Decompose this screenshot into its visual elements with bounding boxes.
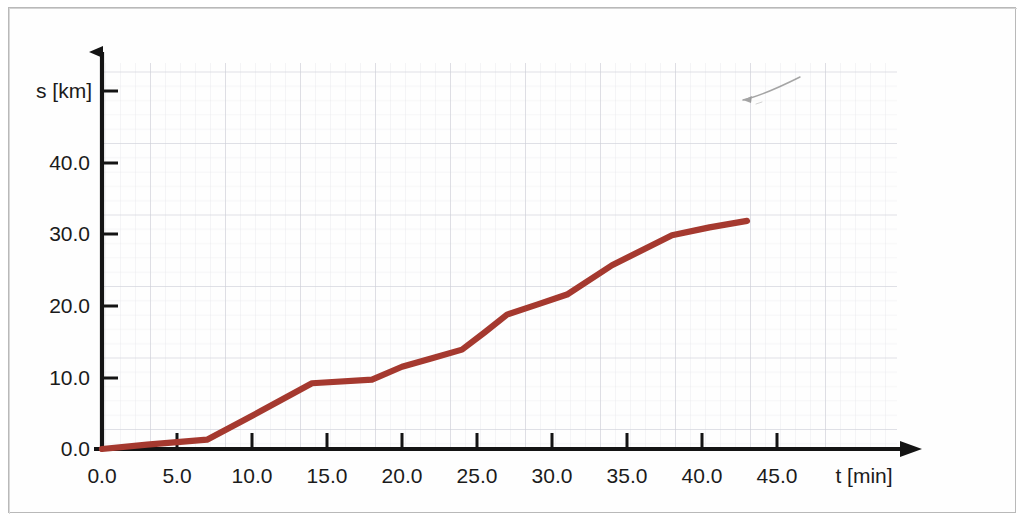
x-tick-label-45: 45.0 [757, 464, 798, 487]
x-tick-label-0: 0.0 [87, 464, 116, 487]
grid-area [102, 63, 897, 449]
x-tick-label-35: 35.0 [607, 464, 648, 487]
y-tick-label-10: 10.0 [49, 366, 90, 389]
x-tick-label-20: 20.0 [382, 464, 423, 487]
x-tick-label-5: 5.0 [162, 464, 191, 487]
y-tick-label-30: 30.0 [49, 222, 90, 245]
st-diagram: 0.0 10.0 20.0 30.0 40.0 s [km] 0.0 5.0 1… [0, 0, 1026, 526]
x-tick-label-25: 25.0 [457, 464, 498, 487]
y-tick-label-20: 20.0 [49, 294, 90, 317]
y-axis-tick-labels: 0.0 10.0 20.0 30.0 40.0 s [km] [36, 79, 92, 460]
y-tick-label-0: 0.0 [61, 437, 90, 460]
x-axis-title: t [min] [835, 464, 892, 487]
y-tick-label-40: 40.0 [49, 151, 90, 174]
x-tick-label-15: 15.0 [307, 464, 348, 487]
x-tick-label-40: 40.0 [682, 464, 723, 487]
x-tick-label-10: 10.0 [232, 464, 273, 487]
y-axis-title: s [km] [36, 79, 92, 102]
figure-page: 0.0 10.0 20.0 30.0 40.0 s [km] 0.0 5.0 1… [0, 0, 1026, 526]
x-axis-arrowhead [900, 441, 922, 457]
x-axis-tick-labels: 0.0 5.0 10.0 15.0 20.0 25.0 30.0 35.0 40… [87, 464, 892, 487]
x-tick-label-30: 30.0 [532, 464, 573, 487]
